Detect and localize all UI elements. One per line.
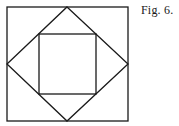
nested-squares-diagram bbox=[0, 0, 179, 126]
diamond bbox=[7, 7, 128, 121]
figure-caption: Fig. 6. bbox=[141, 3, 173, 18]
inner-square bbox=[39, 34, 96, 94]
outer-square bbox=[7, 7, 128, 121]
